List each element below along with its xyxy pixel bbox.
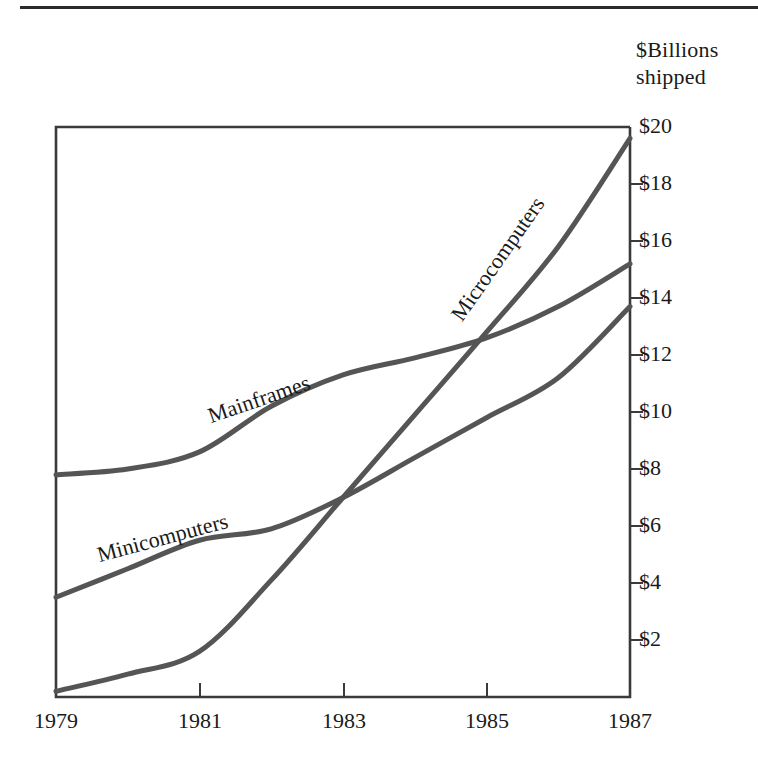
y-axis-title: $Billions shipped — [636, 36, 719, 90]
y-axis-label-6: $6 — [639, 512, 661, 538]
series-line-mainframes — [56, 264, 630, 475]
x-axis-ticks — [200, 683, 487, 697]
y-axis-label-16: $16 — [639, 227, 672, 253]
series-lines — [56, 138, 630, 691]
x-axis-label-1987: 1987 — [590, 708, 670, 734]
x-axis-label-1985: 1985 — [447, 708, 527, 734]
y-axis-label-14: $14 — [639, 284, 672, 310]
series-line-microcomputers — [56, 138, 630, 691]
x-axis-label-1981: 1981 — [160, 708, 240, 734]
y-axis-label-10: $10 — [639, 398, 672, 424]
y-axis-label-20: $20 — [639, 113, 672, 139]
y-axis-title-line1: $Billions — [636, 36, 719, 63]
y-axis-label-8: $8 — [639, 455, 661, 481]
chart-page: $Billions shipped $20 $18 $16 $14 $12 $1… — [0, 0, 758, 763]
x-axis-label-1979: 1979 — [16, 708, 96, 734]
y-axis-label-18: $18 — [639, 170, 672, 196]
y-axis-label-12: $12 — [639, 341, 672, 367]
y-axis-label-2: $2 — [639, 626, 661, 652]
y-axis-label-4: $4 — [639, 569, 661, 595]
x-axis-label-1983: 1983 — [304, 708, 384, 734]
y-axis-title-line2: shipped — [636, 63, 719, 90]
